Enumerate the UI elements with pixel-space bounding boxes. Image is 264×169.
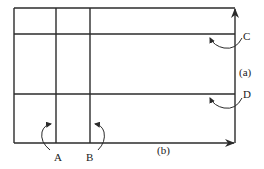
curved-arrow-b-icon [95,124,104,150]
label-a: A [54,151,62,163]
label-b-paren: (b) [157,144,170,157]
label-d: D [243,88,251,100]
grid-diagram: C (a) D A B (b) [0,0,264,169]
label-a-paren: (a) [239,66,252,79]
curved-arrow-a-icon [42,124,51,150]
label-c: C [243,30,250,42]
curved-arrow-d-icon [210,98,242,108]
label-b: B [86,151,93,163]
curved-arrow-c-icon [210,38,242,48]
